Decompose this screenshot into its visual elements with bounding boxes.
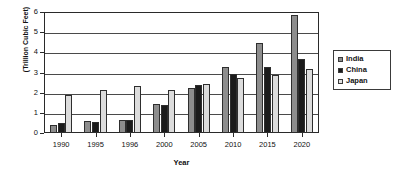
bar-india-1995 xyxy=(84,121,91,133)
bar-japan-1995 xyxy=(100,90,107,133)
bar-group xyxy=(216,12,250,133)
bar-group xyxy=(285,12,319,133)
bar-china-2005 xyxy=(195,85,202,133)
legend-entry-japan: Japan xyxy=(338,76,386,86)
x-tick-mark xyxy=(199,133,200,137)
x-tick-mark xyxy=(96,133,97,137)
bar-groups xyxy=(44,12,319,133)
x-tick-label-2020: 2020 xyxy=(282,140,322,149)
y-tick-label: 3 xyxy=(4,69,38,77)
bar-china-1995 xyxy=(92,122,99,133)
x-tick-mark xyxy=(164,133,165,137)
y-tick-mark xyxy=(40,133,44,134)
bar-japan-1996 xyxy=(134,86,141,133)
bar-india-2010 xyxy=(222,67,229,133)
bar-india-2015 xyxy=(256,43,263,133)
x-tick-mark xyxy=(267,133,268,137)
bar-group xyxy=(250,12,284,133)
legend-label-india: India xyxy=(346,55,364,63)
legend-label-china: China xyxy=(346,66,367,74)
chart-legend: IndiaChinaJapan xyxy=(333,50,391,90)
bar-japan-2020 xyxy=(306,69,313,133)
y-tick-label: 6 xyxy=(4,8,38,16)
y-tick-label: 2 xyxy=(4,89,38,97)
bar-china-2015 xyxy=(264,67,271,133)
bar-japan-2005 xyxy=(203,84,210,133)
bar-group xyxy=(78,12,112,133)
bar-chart: (Trillion Cubic Feet) 0123456 1990199519… xyxy=(0,0,413,177)
bar-japan-2015 xyxy=(272,75,279,133)
bar-china-1990 xyxy=(58,123,65,133)
bar-japan-2000 xyxy=(168,90,175,133)
bar-china-1996 xyxy=(126,120,133,133)
legend-entry-china: China xyxy=(338,65,386,75)
y-tick-label: 0 xyxy=(4,129,38,137)
bar-group xyxy=(44,12,78,133)
bar-japan-1990 xyxy=(65,95,72,133)
bar-china-2020 xyxy=(298,59,305,133)
y-tick-label: 1 xyxy=(4,109,38,117)
x-tick-mark xyxy=(61,133,62,137)
y-tick-label: 5 xyxy=(4,28,38,36)
legend-label-japan: Japan xyxy=(346,77,368,85)
x-tick-mark xyxy=(302,133,303,137)
bar-india-1996 xyxy=(119,120,126,133)
bar-china-2010 xyxy=(230,74,237,133)
bar-india-1990 xyxy=(50,125,57,133)
bar-group xyxy=(182,12,216,133)
bar-japan-2010 xyxy=(237,78,244,133)
bar-china-2000 xyxy=(161,105,168,133)
legend-swatch-china xyxy=(338,68,343,73)
legend-entry-india: India xyxy=(338,54,386,64)
legend-swatch-japan xyxy=(338,79,343,84)
bar-group xyxy=(147,12,181,133)
x-tick-mark xyxy=(130,133,131,137)
bar-india-2020 xyxy=(291,15,298,133)
x-axis-title: Year xyxy=(44,158,319,167)
bar-group xyxy=(113,12,147,133)
x-tick-mark xyxy=(233,133,234,137)
y-tick-label: 4 xyxy=(4,48,38,56)
bar-india-2005 xyxy=(188,88,195,133)
bar-india-2000 xyxy=(153,104,160,133)
legend-swatch-india xyxy=(338,57,343,62)
